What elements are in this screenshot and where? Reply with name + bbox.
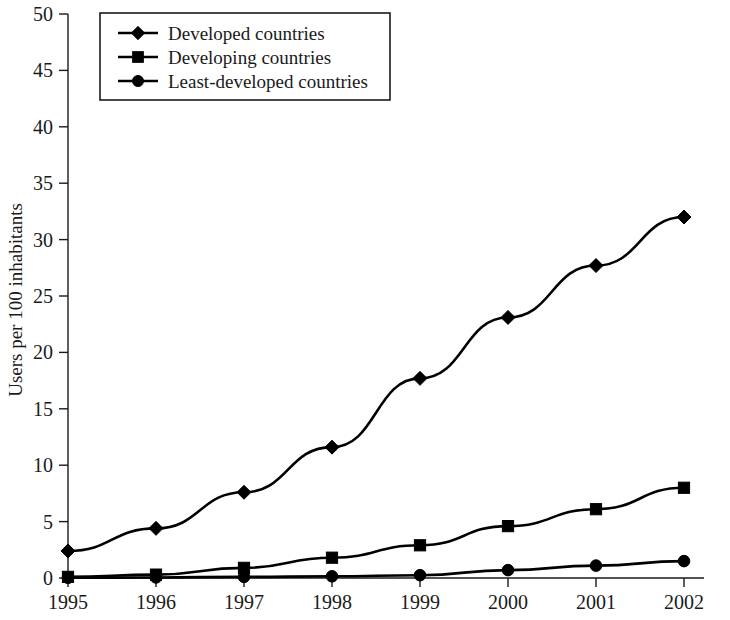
data-point-square <box>133 52 144 63</box>
data-point-diamond <box>61 544 75 558</box>
x-tick-label: 2000 <box>488 591 528 613</box>
data-point-diamond <box>413 371 427 385</box>
y-tick-label: 25 <box>33 285 53 307</box>
data-point-circle <box>326 571 338 583</box>
y-tick-label: 45 <box>33 59 53 81</box>
line-chart: 05101520253035404550 1995199619971998199… <box>0 0 730 620</box>
data-point-diamond <box>677 210 691 224</box>
y-axis-title: Users per 100 inhabitants <box>5 203 26 397</box>
x-tick-label: 1999 <box>400 591 440 613</box>
y-tick-label: 30 <box>33 229 53 251</box>
y-axis-title-label: Users per 100 inhabitants <box>5 203 26 397</box>
y-tick-label: 0 <box>43 567 53 589</box>
data-point-diamond <box>325 440 339 454</box>
data-point-circle <box>150 572 162 584</box>
data-point-diamond <box>149 521 163 535</box>
x-tick-label: 1997 <box>224 591 264 613</box>
data-point-circle <box>238 571 250 583</box>
data-point-circle <box>502 564 514 576</box>
x-tick-label: 1996 <box>136 591 176 613</box>
data-point-diamond <box>501 310 515 324</box>
y-tick-label: 40 <box>33 116 53 138</box>
x-tick-label: 1995 <box>48 591 88 613</box>
y-tick-label: 10 <box>33 454 53 476</box>
y-tick-label: 35 <box>33 172 53 194</box>
chart-container: 05101520253035404550 1995199619971998199… <box>0 0 730 620</box>
y-tick-label: 5 <box>43 511 53 533</box>
legend-label: Least-developed countries <box>168 71 368 92</box>
data-point-square <box>326 552 337 563</box>
x-tick-label: 1998 <box>312 591 352 613</box>
x-axis: 19951996199719981999200020012002 <box>48 578 704 613</box>
x-tick-label: 2002 <box>664 591 704 613</box>
data-point-diamond <box>237 485 251 499</box>
data-point-circle <box>590 560 602 572</box>
chart-legend: Developed countriesDeveloping countriesL… <box>100 13 390 100</box>
data-point-square <box>502 521 513 532</box>
data-point-square <box>414 540 425 551</box>
y-tick-label: 15 <box>33 398 53 420</box>
data-point-square <box>678 482 689 493</box>
data-point-circle <box>414 569 426 581</box>
y-tick-label: 50 <box>33 3 53 25</box>
data-point-circle <box>132 75 143 86</box>
data-point-circle <box>678 555 690 567</box>
legend-label: Developed countries <box>168 23 325 44</box>
legend-label: Developing countries <box>168 47 331 68</box>
data-point-circle <box>62 572 74 584</box>
data-point-diamond <box>589 259 603 273</box>
series-layer <box>61 210 691 584</box>
y-tick-label: 20 <box>33 341 53 363</box>
y-axis: 05101520253035404550 <box>33 3 68 589</box>
x-tick-label: 2001 <box>576 591 616 613</box>
data-point-square <box>590 504 601 515</box>
